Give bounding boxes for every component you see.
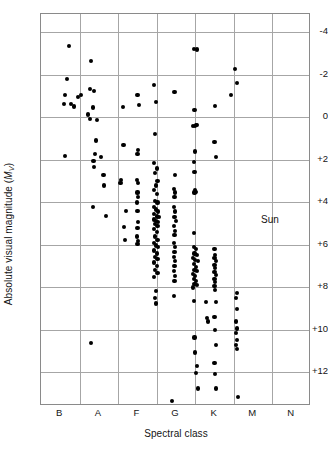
scatter-point — [192, 231, 196, 235]
scatter-point — [92, 165, 96, 169]
scatter-point — [235, 326, 239, 330]
y-axis-tick-label: +10 — [294, 324, 328, 334]
scatter-point — [62, 102, 66, 106]
scatter-point — [214, 300, 218, 304]
scatter-point — [213, 372, 217, 376]
scatter-point — [102, 183, 106, 187]
scatter-point — [233, 67, 237, 71]
scatter-point — [154, 289, 158, 293]
gridline-horizontal — [41, 330, 309, 331]
scatter-point — [173, 173, 177, 177]
scatter-point — [91, 205, 95, 209]
scatter-point — [234, 331, 238, 335]
scatter-point — [172, 294, 176, 298]
scatter-point — [99, 155, 103, 159]
x-axis-tick-label: B — [49, 408, 69, 418]
scatter-point — [173, 245, 177, 249]
scatter-point — [136, 195, 140, 199]
scatter-point — [135, 190, 139, 194]
scatter-point — [234, 296, 238, 300]
y-axis-title-symbol: M — [3, 171, 14, 179]
scatter-point — [155, 166, 159, 170]
scatter-point — [212, 315, 216, 319]
scatter-point — [214, 386, 218, 390]
scatter-point — [204, 300, 208, 304]
scatter-point — [155, 192, 159, 196]
scatter-point — [172, 224, 176, 228]
y-axis-tick-label: +4 — [294, 196, 328, 206]
y-axis-title-suffix: ) — [3, 163, 14, 166]
scatter-point — [174, 219, 178, 223]
scatter-point — [135, 200, 139, 204]
y-axis-title-subscript: V — [7, 166, 16, 171]
scatter-point — [135, 152, 139, 156]
scatter-point — [91, 105, 95, 109]
scatter-point — [135, 242, 139, 246]
scatter-point — [93, 152, 97, 156]
x-axis-tick-label: N — [281, 408, 301, 418]
scatter-point — [172, 279, 176, 283]
scatter-point — [173, 209, 177, 213]
scatter-point — [172, 233, 176, 237]
y-axis-tick-label: +6 — [294, 239, 328, 249]
scatter-point — [121, 105, 125, 109]
scatter-point — [214, 343, 218, 347]
scatter-point — [101, 173, 105, 177]
plot-area: Sun — [40, 13, 310, 405]
scatter-point — [193, 149, 197, 153]
x-axis-tick-label: M — [242, 408, 262, 418]
scatter-point — [170, 399, 174, 403]
gridline-horizontal — [41, 117, 309, 118]
scatter-point — [155, 224, 159, 228]
scatter-point — [195, 364, 199, 368]
scatter-point — [196, 386, 200, 390]
scatter-point — [212, 361, 216, 365]
scatter-point — [235, 291, 239, 295]
y-axis-tick-label: 0 — [294, 111, 328, 121]
scatter-point — [172, 195, 176, 199]
scatter-point — [192, 170, 196, 174]
scatter-point — [94, 138, 98, 142]
scatter-point — [156, 209, 160, 213]
scatter-point — [194, 371, 198, 375]
scatter-point — [195, 269, 199, 273]
scatter-point — [153, 132, 157, 136]
gridline-horizontal — [41, 372, 309, 373]
scatter-point — [195, 253, 199, 257]
scatter-point — [206, 319, 210, 323]
scatter-point — [172, 250, 176, 254]
x-axis-tick-label: K — [204, 408, 224, 418]
scatter-point — [95, 118, 99, 122]
scatter-point — [124, 209, 128, 213]
scatter-point — [67, 44, 71, 48]
x-axis-tick-label: G — [165, 408, 185, 418]
scatter-point — [89, 59, 93, 63]
gridline-vertical — [272, 14, 273, 404]
scatter-point — [172, 269, 176, 273]
gridline-horizontal — [41, 202, 309, 203]
scatter-point — [92, 89, 96, 93]
scatter-point — [212, 247, 216, 251]
y-axis-title: Absolute visual magnitude (MV) — [0, 9, 18, 450]
scatter-point — [213, 328, 217, 332]
scatter-point — [235, 307, 239, 311]
scatter-point — [72, 104, 76, 108]
scatter-point — [156, 245, 160, 249]
scatter-point — [235, 338, 239, 342]
scatter-point — [213, 104, 217, 108]
scatter-point — [173, 274, 177, 278]
gridline-horizontal — [41, 287, 309, 288]
x-axis-tick-label: A — [88, 408, 108, 418]
x-axis-title: Spectral class — [40, 428, 312, 439]
y-axis-title-prefix: Absolute visual magnitude ( — [3, 180, 14, 306]
scatter-point — [86, 112, 90, 116]
scatter-point — [173, 259, 177, 263]
scatter-point — [155, 271, 159, 275]
scatter-point — [88, 117, 92, 121]
gridline-horizontal — [41, 75, 309, 76]
scatter-point — [214, 155, 218, 159]
scatter-point — [63, 93, 67, 97]
scatter-point — [194, 190, 198, 194]
y-axis-tick-label: +2 — [294, 154, 328, 164]
scatter-point — [65, 77, 69, 81]
